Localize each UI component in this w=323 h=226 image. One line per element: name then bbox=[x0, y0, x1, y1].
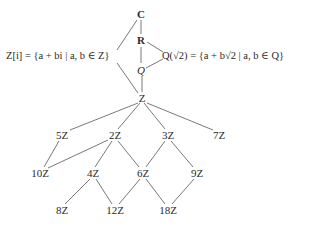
label-q-sqrt2: Q(√2) = {a + b√2 | a, b ∈ Q} bbox=[162, 50, 284, 62]
lattice-edges bbox=[0, 0, 323, 226]
node-r: R bbox=[137, 34, 145, 46]
node-7z: 7Z bbox=[213, 129, 225, 141]
node-4z: 4Z bbox=[87, 167, 99, 179]
node-c: C bbox=[137, 8, 145, 20]
node-12z: 12Z bbox=[106, 204, 124, 216]
node-6z: 6Z bbox=[137, 167, 149, 179]
node-5z: 5Z bbox=[56, 129, 68, 141]
node-8z: 8Z bbox=[56, 204, 68, 216]
node-q: Q bbox=[137, 64, 145, 76]
node-3z: 3Z bbox=[162, 129, 174, 141]
label-gaussian-integers: Z[i] = {a + bi | a, b ∈ Z} bbox=[6, 50, 110, 62]
node-z: Z bbox=[139, 92, 146, 104]
node-18z: 18Z bbox=[159, 204, 177, 216]
node-10z: 10Z bbox=[31, 167, 49, 179]
node-2z: 2Z bbox=[109, 129, 121, 141]
node-9z: 9Z bbox=[191, 167, 203, 179]
